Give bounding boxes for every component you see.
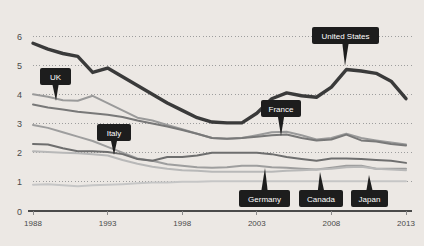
x-tick-1993: 1993 [99, 219, 117, 228]
chart-canvas: 0123456 198819931998200320082013 UKItaly… [0, 0, 424, 246]
y-tick-2: 2 [17, 148, 22, 158]
x-tick-2013: 2013 [397, 219, 415, 228]
x-tick-2003: 2003 [248, 219, 266, 228]
x-tick-1988: 1988 [24, 219, 42, 228]
y-tick-0: 0 [17, 207, 22, 217]
callout-label: Italy [107, 129, 122, 138]
x-tick-2008: 2008 [323, 219, 341, 228]
line-chart: 0123456 198819931998200320082013 UKItaly… [0, 0, 424, 246]
callout-label: Canada [307, 195, 336, 204]
y-tick-4: 4 [17, 90, 22, 100]
y-tick-1: 1 [17, 177, 22, 187]
y-tick-5: 5 [17, 61, 22, 71]
y-tick-3: 3 [17, 119, 22, 129]
x-tick-1998: 1998 [173, 219, 191, 228]
callout-label: Japan [359, 195, 381, 204]
callout-label: Germany [248, 195, 281, 204]
y-tick-6: 6 [17, 32, 22, 42]
callout-label: France [269, 105, 294, 114]
callout-label: UK [50, 73, 62, 82]
callout-label: United States [321, 32, 369, 41]
